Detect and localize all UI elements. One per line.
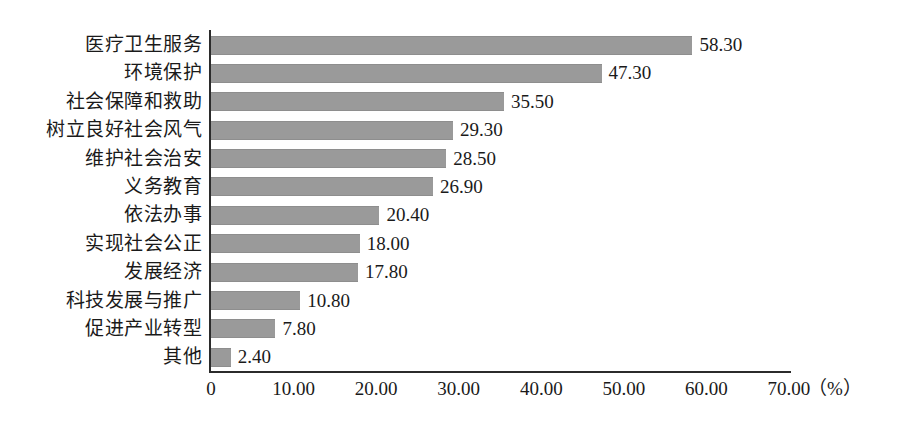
bar-fill: [211, 149, 446, 168]
bar-row: 环境保护47.30: [0, 59, 914, 87]
bar-fill: [211, 64, 602, 83]
category-label: 其他: [163, 343, 202, 371]
bar: [211, 291, 300, 310]
bar-value-label: 17.80: [365, 258, 408, 286]
category-label: 社会保障和救助: [66, 88, 203, 116]
bar-row: 科技发展与推广10.80: [0, 287, 914, 315]
bar-value-label: 35.50: [511, 88, 554, 116]
bar-value-label: 26.90: [440, 173, 483, 201]
bar-fill: [211, 263, 358, 282]
bar: [211, 92, 504, 111]
bar-row: 促进产业转型7.80: [0, 315, 914, 343]
bar-row: 社会保障和救助35.50: [0, 88, 914, 116]
bar-value-label: 2.40: [238, 343, 271, 371]
bar: [211, 263, 358, 282]
bar-value-label: 20.40: [386, 201, 429, 229]
bar-fill: [211, 36, 692, 55]
x-axis-ticks: 010.0020.0030.0040.0050.0060.0070.00: [0, 376, 914, 406]
category-label: 促进产业转型: [85, 315, 202, 343]
category-label: 维护社会治安: [85, 145, 202, 173]
category-label: 树立良好社会风气: [46, 116, 202, 144]
bar-row: 实现社会公正18.00: [0, 230, 914, 258]
bar-row: 义务教育26.90: [0, 173, 914, 201]
bar-row: 依法办事20.40: [0, 201, 914, 229]
bar-value-label: 18.00: [367, 230, 410, 258]
x-tick-label: 10.00: [272, 376, 315, 402]
x-tick-label: 20.00: [355, 376, 398, 402]
bar-fill: [211, 319, 275, 338]
bar-value-label: 29.30: [460, 116, 503, 144]
bar-value-label: 58.30: [699, 31, 742, 59]
bar: [211, 36, 692, 55]
bar-value-label: 10.80: [307, 287, 350, 315]
bar-row: 其他2.40: [0, 343, 914, 371]
category-label: 依法办事: [124, 201, 202, 229]
bar: [211, 206, 379, 225]
category-label: 发展经济: [124, 258, 202, 286]
x-tick-label: 30.00: [437, 376, 480, 402]
x-tick-label: 50.00: [602, 376, 645, 402]
category-label: 义务教育: [124, 173, 202, 201]
bar: [211, 64, 602, 83]
x-axis-unit-label: （%）: [808, 376, 862, 402]
bar-fill: [211, 291, 300, 310]
bar-value-label: 28.50: [453, 145, 496, 173]
bar-chart: 医疗卫生服务58.30环境保护47.30社会保障和救助35.50树立良好社会风气…: [0, 0, 914, 441]
x-tick-label: 60.00: [685, 376, 728, 402]
bar: [211, 348, 231, 367]
bar-value-label: 47.30: [609, 59, 652, 87]
bar: [211, 149, 446, 168]
category-label: 环境保护: [124, 59, 202, 87]
bar-fill: [211, 121, 453, 140]
bar: [211, 234, 360, 253]
bar-rows: 医疗卫生服务58.30环境保护47.30社会保障和救助35.50树立良好社会风气…: [0, 31, 914, 372]
x-tick-label: 40.00: [520, 376, 563, 402]
bar-fill: [211, 92, 504, 111]
category-label: 科技发展与推广: [66, 287, 203, 315]
bar-fill: [211, 234, 360, 253]
bar-row: 医疗卫生服务58.30: [0, 31, 914, 59]
category-label: 实现社会公正: [85, 230, 202, 258]
bar-fill: [211, 177, 433, 196]
bar-fill: [211, 348, 231, 367]
bar-row: 维护社会治安28.50: [0, 145, 914, 173]
bar: [211, 121, 453, 140]
category-label: 医疗卫生服务: [85, 31, 202, 59]
x-tick-label: 70.00: [768, 376, 811, 402]
bar-row: 树立良好社会风气29.30: [0, 116, 914, 144]
bar-row: 发展经济17.80: [0, 258, 914, 286]
bar-value-label: 7.80: [282, 315, 315, 343]
bar: [211, 319, 275, 338]
bar: [211, 177, 433, 196]
x-tick-label: 0: [206, 376, 216, 402]
bar-fill: [211, 206, 379, 225]
